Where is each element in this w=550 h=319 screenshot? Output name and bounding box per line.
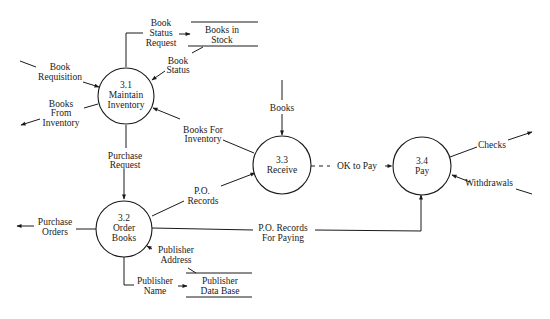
flow-label: Status bbox=[149, 28, 173, 38]
store-label: Data Base bbox=[201, 286, 240, 296]
flow-label: P.O. Records bbox=[258, 223, 308, 233]
flow-label: From bbox=[51, 108, 72, 118]
flow-purchase-request: Purchase Request bbox=[108, 125, 142, 199]
process-3-2-order-books: 3.2 Order Books bbox=[96, 201, 152, 257]
process-name: Inventory bbox=[108, 100, 145, 110]
process-name: Books bbox=[112, 233, 137, 243]
process-name: Pay bbox=[415, 166, 430, 176]
store-label: Publisher bbox=[202, 276, 239, 286]
flow-publisher-address: Publisher Address bbox=[147, 245, 196, 273]
flow-label: Publisher bbox=[137, 276, 174, 286]
flow-label: Orders bbox=[42, 227, 68, 237]
flow-ok-to-pay: OK to Pay bbox=[311, 161, 392, 171]
process-3-4-pay: 3.4 Pay bbox=[393, 137, 451, 195]
flow-withdrawals: Withdrawals bbox=[452, 175, 532, 194]
flow-book-requisition: Book Requisition bbox=[20, 61, 99, 87]
process-name: Receive bbox=[267, 165, 298, 175]
flow-label: Book bbox=[151, 18, 172, 28]
data-flow-diagram: Books in Stock Publisher Data Base Book … bbox=[0, 0, 550, 319]
store-label: Books in bbox=[205, 25, 239, 35]
flow-label: Purchase bbox=[38, 217, 72, 227]
flow-label: For Paying bbox=[262, 233, 304, 243]
process-number: 3.3 bbox=[276, 155, 288, 165]
flow-books-from-inventory: Books From Inventory bbox=[21, 99, 98, 128]
process-3-3-receive: 3.3 Receive bbox=[253, 136, 311, 194]
flow-label: Status bbox=[166, 65, 190, 75]
flow-books-for-inventory: Books For Inventory bbox=[153, 108, 254, 153]
process-name: Order bbox=[113, 223, 136, 233]
process-3-1-maintain-inventory: 3.1 Maintain Inventory bbox=[98, 68, 154, 124]
flow-label: Publisher bbox=[158, 245, 195, 255]
flow-label: P.O. bbox=[194, 186, 210, 196]
flow-checks: Checks bbox=[450, 132, 532, 157]
process-number: 3.1 bbox=[120, 80, 132, 90]
flow-book-status: Book Status bbox=[152, 47, 203, 80]
data-store-books-in-stock: Books in Stock bbox=[188, 22, 258, 46]
flow-label: Request bbox=[146, 38, 177, 48]
flow-label: Books bbox=[270, 103, 295, 113]
flow-label: Inventory bbox=[185, 134, 222, 144]
flow-books: Books bbox=[270, 80, 295, 135]
flow-purchase-orders: Purchase Orders bbox=[17, 217, 96, 237]
flow-label: Withdrawals bbox=[465, 178, 513, 188]
flow-label: Records bbox=[187, 196, 218, 206]
store-label: Stock bbox=[211, 35, 233, 45]
data-store-publisher-db: Publisher Data Base bbox=[186, 273, 252, 297]
process-number: 3.2 bbox=[118, 213, 130, 223]
flow-label: Inventory bbox=[43, 118, 80, 128]
process-name: Maintain bbox=[109, 90, 144, 100]
flow-label: Name bbox=[144, 286, 167, 296]
flow-label: OK to Pay bbox=[337, 161, 377, 171]
flow-label: Request bbox=[110, 160, 141, 170]
flow-label: Checks bbox=[478, 140, 506, 150]
flow-label: Book bbox=[50, 62, 71, 72]
flow-label: Address bbox=[160, 255, 191, 265]
process-number: 3.4 bbox=[416, 156, 428, 166]
flow-label: Requisition bbox=[38, 72, 82, 82]
flow-po-records: P.O. Records bbox=[152, 173, 255, 216]
